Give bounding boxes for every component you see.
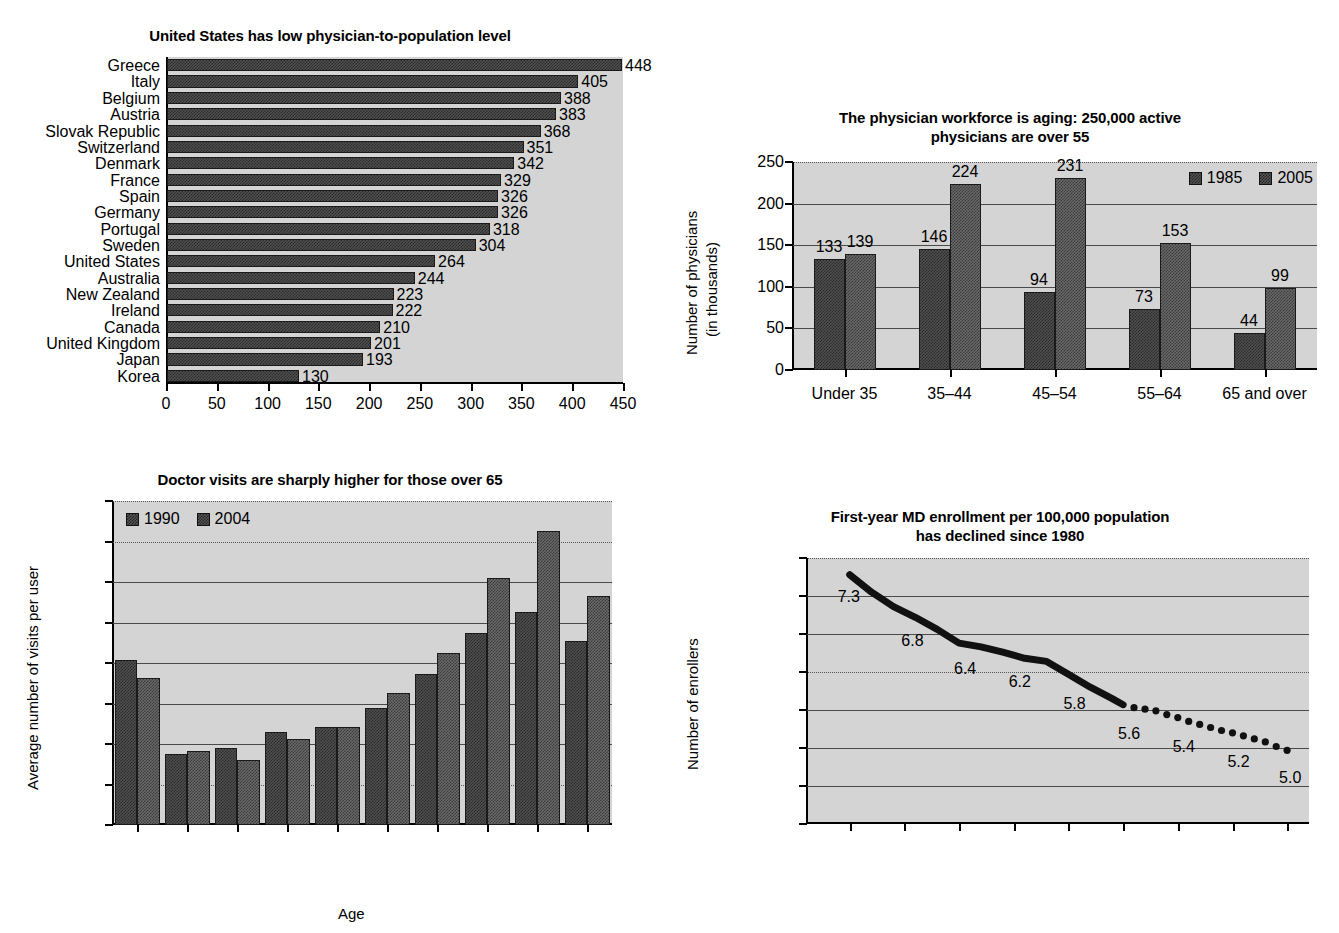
bar <box>465 633 488 825</box>
x-tick <box>904 823 906 831</box>
data-point-label: 7.3 <box>838 589 860 605</box>
category-label: Canada <box>0 320 160 336</box>
y-tick <box>785 327 793 329</box>
bar <box>167 75 578 87</box>
category-label: 65 and over <box>1205 386 1325 402</box>
bar <box>1129 309 1160 370</box>
y-axis-label-doctor-visits: Average number of visits per user <box>24 566 41 790</box>
chart-title-md-enrollment-line2: has declined since 1980 <box>700 526 1300 545</box>
bar-value-label: 130 <box>302 369 329 385</box>
legend-swatch-1985 <box>1189 172 1202 185</box>
bar <box>415 674 438 825</box>
bar-value-label: 326 <box>501 189 528 205</box>
x-tick <box>471 383 473 391</box>
category-label: Ireland <box>0 303 160 319</box>
x-axis-label-doctor-visits: Age <box>338 905 365 922</box>
x-tick-label: 150 <box>293 396 343 412</box>
y-tick-label: 150 <box>740 237 784 253</box>
x-tick <box>1123 823 1125 831</box>
bar-value-label: 210 <box>383 320 410 336</box>
y-tick <box>799 823 807 825</box>
category-label: Greece <box>0 58 160 74</box>
bar <box>1265 288 1296 370</box>
projection-dot <box>1152 707 1159 714</box>
projection-dot <box>1273 743 1280 750</box>
legend-swatch-2004 <box>197 513 210 526</box>
bar-value-label: 224 <box>948 164 982 180</box>
solid-trend-line <box>850 575 1123 705</box>
bar <box>1024 292 1055 370</box>
bar-value-label: 383 <box>559 107 586 123</box>
bar-value-label: 368 <box>544 124 571 140</box>
y-tick <box>799 747 807 749</box>
plot-area-md-enrollment: 7.36.86.46.25.85.65.45.25.0 <box>806 558 1309 824</box>
bar-value-label: 304 <box>479 238 506 254</box>
y-tick <box>105 703 113 705</box>
x-tick <box>237 824 239 832</box>
bar-value-label: 222 <box>396 303 423 319</box>
y-axis-line <box>166 57 168 384</box>
chart-title-workforce-line1: The physician workforce is aging: 250,00… <box>720 108 1300 127</box>
y-tick <box>799 595 807 597</box>
x-tick <box>268 383 270 391</box>
bar-value-label: 388 <box>564 91 591 107</box>
x-tick-label: 250 <box>395 396 445 412</box>
projection-dot <box>1251 735 1258 742</box>
x-tick <box>850 823 852 831</box>
bar <box>950 184 981 370</box>
projection-dot <box>1229 729 1236 736</box>
y-tick <box>799 785 807 787</box>
category-label: Sweden <box>0 238 160 254</box>
x-tick <box>521 383 523 391</box>
projection-dot <box>1185 718 1192 725</box>
bar <box>287 739 310 825</box>
x-tick-label: 0 <box>141 396 191 412</box>
bar-value-label: 318 <box>493 222 520 238</box>
bar-value-label: 94 <box>1022 272 1056 288</box>
projection-dot <box>1141 706 1148 713</box>
x-tick <box>623 383 625 391</box>
y-tick <box>799 671 807 673</box>
bar <box>167 108 556 120</box>
projection-dot <box>1262 738 1269 745</box>
x-tick-label: 450 <box>598 396 648 412</box>
x-axis-line <box>166 382 623 384</box>
category-label: Australia <box>0 271 160 287</box>
bar <box>167 304 393 316</box>
x-tick <box>1014 823 1016 831</box>
bar <box>387 693 410 825</box>
bar <box>167 92 561 104</box>
bar-value-label: 244 <box>418 271 445 287</box>
category-label: New Zealand <box>0 287 160 303</box>
projection-dot <box>1284 747 1291 754</box>
x-tick <box>337 824 339 832</box>
bar-value-label: 405 <box>581 74 608 90</box>
data-point-label: 5.4 <box>1173 739 1195 755</box>
y-tick <box>105 784 113 786</box>
legend-item: 1985 <box>1189 170 1243 186</box>
bar <box>537 531 560 825</box>
x-tick <box>217 383 219 391</box>
bar-value-label: 223 <box>397 287 424 303</box>
bar <box>167 272 415 284</box>
y-tick <box>799 633 807 635</box>
x-tick <box>1287 823 1289 831</box>
projection-dot <box>1130 704 1137 711</box>
y-tick-label: 0 <box>740 362 784 378</box>
chart-title-physician-to-population: United States has low physician-to-popul… <box>10 26 650 45</box>
y-axis-line <box>792 162 794 370</box>
y-tick <box>105 581 113 583</box>
y-tick <box>785 203 793 205</box>
bar <box>265 732 288 825</box>
bar <box>167 337 371 349</box>
bar <box>167 141 524 153</box>
category-label: Denmark <box>0 156 160 172</box>
legend-item: 1990 <box>126 511 180 527</box>
gridline <box>112 501 612 502</box>
bar <box>167 157 514 169</box>
x-tick <box>1265 369 1267 377</box>
category-label: Spain <box>0 189 160 205</box>
x-tick-label: 350 <box>496 396 546 412</box>
x-tick <box>487 824 489 832</box>
category-label: United Kingdom <box>0 336 160 352</box>
